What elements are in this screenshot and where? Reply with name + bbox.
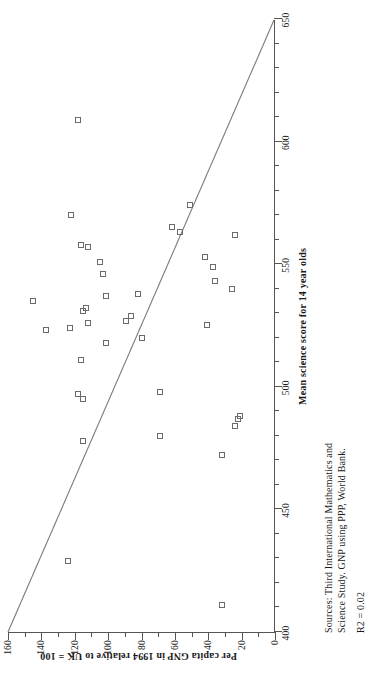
x-axis-minor-tick xyxy=(274,67,279,68)
data-point xyxy=(219,452,225,458)
x-axis-tick-label: 450 xyxy=(281,503,291,518)
sources-note: Sources: Third International Mathematics… xyxy=(322,33,367,633)
data-point xyxy=(30,298,36,304)
plot-inner xyxy=(8,20,274,632)
x-axis-minor-tick xyxy=(274,410,279,411)
x-axis-minor-tick xyxy=(274,557,279,558)
y-axis-minor-tick xyxy=(91,632,92,637)
y-axis-tick-label: 80 xyxy=(137,640,147,650)
y-axis-minor-tick xyxy=(25,632,26,637)
x-axis-minor-tick xyxy=(274,214,279,215)
data-point xyxy=(187,202,193,208)
data-point xyxy=(139,335,145,341)
x-axis-minor-tick xyxy=(274,165,279,166)
data-point xyxy=(85,320,91,326)
sources-line-2: Science Study. GNP using PPP, World Bank… xyxy=(335,33,348,633)
y-axis-minor-tick xyxy=(125,632,126,637)
x-axis-tick-label: 400 xyxy=(281,626,291,641)
x-axis-minor-tick xyxy=(274,239,279,240)
data-point xyxy=(204,323,210,329)
y-axis-major-tick xyxy=(275,632,276,640)
sources-line-1: Sources: Third International Mathematics… xyxy=(322,33,335,633)
data-point xyxy=(210,264,216,270)
data-point xyxy=(229,286,235,292)
data-point xyxy=(65,558,71,564)
y-axis-minor-tick xyxy=(158,632,159,637)
data-point xyxy=(83,305,89,311)
data-point xyxy=(75,391,81,397)
x-axis-minor-tick xyxy=(274,606,279,607)
data-point xyxy=(67,325,73,331)
x-axis-minor-tick xyxy=(274,43,279,44)
x-axis-minor-tick xyxy=(274,337,279,338)
data-point xyxy=(202,254,208,260)
plot-area xyxy=(8,20,275,633)
y-axis-major-tick xyxy=(8,632,9,640)
y-axis-tick-label: 40 xyxy=(203,640,213,650)
x-axis-minor-tick xyxy=(274,92,279,93)
y-axis-major-tick xyxy=(208,632,209,640)
data-point xyxy=(75,117,81,123)
x-axis-minor-tick xyxy=(274,484,279,485)
data-point xyxy=(212,278,218,284)
y-axis-major-tick xyxy=(142,632,143,640)
data-point xyxy=(232,232,238,238)
y-axis-title: Per capita GNP in 1994 relative to UK = … xyxy=(0,651,289,662)
data-point xyxy=(128,313,134,319)
data-point xyxy=(157,433,163,439)
y-axis-tick-label: 60 xyxy=(170,640,180,650)
r-squared-note: R2 = 0.02 xyxy=(354,33,367,633)
x-axis-minor-tick xyxy=(274,533,279,534)
y-axis-tick-label: 20 xyxy=(237,640,247,650)
data-point xyxy=(232,423,238,429)
y-axis-tick-labels: 020406080100120140160 xyxy=(8,640,275,688)
y-axis-minor-tick xyxy=(58,632,59,637)
x-axis-minor-tick xyxy=(274,288,279,289)
data-point xyxy=(135,291,141,297)
data-point xyxy=(237,413,243,419)
data-point xyxy=(78,242,84,248)
x-axis-minor-tick xyxy=(274,459,279,460)
data-point xyxy=(68,212,74,218)
y-axis-minor-tick xyxy=(192,632,193,637)
data-point xyxy=(103,340,109,346)
data-point xyxy=(157,389,163,395)
y-axis-major-tick xyxy=(175,632,176,640)
y-axis-major-tick xyxy=(242,632,243,640)
data-point xyxy=(100,271,106,277)
x-axis-minor-tick xyxy=(274,116,279,117)
data-point xyxy=(78,357,84,363)
y-axis-minor-tick xyxy=(258,632,259,637)
x-axis-tick-label: 500 xyxy=(281,380,291,395)
data-point xyxy=(103,293,109,299)
y-axis-major-tick xyxy=(108,632,109,640)
x-axis-tick-label: 550 xyxy=(281,258,291,273)
y-axis-major-tick xyxy=(41,632,42,640)
x-axis-tick-label: 650 xyxy=(281,13,291,28)
x-axis-title: Mean science score for 14 year olds xyxy=(297,20,308,633)
y-axis-major-tick xyxy=(75,632,76,640)
data-point xyxy=(169,224,175,230)
x-axis-minor-tick xyxy=(274,361,279,362)
x-axis-minor-tick xyxy=(274,312,279,313)
data-point xyxy=(80,438,86,444)
y-axis-minor-tick xyxy=(225,632,226,637)
x-axis-minor-tick xyxy=(274,190,279,191)
data-point xyxy=(177,229,183,235)
data-point xyxy=(43,327,49,333)
y-axis-tick-label: 0 xyxy=(270,640,280,645)
data-point xyxy=(85,244,91,250)
x-axis-minor-tick xyxy=(274,582,279,583)
x-axis-minor-tick xyxy=(274,435,279,436)
x-axis-tick-label: 600 xyxy=(281,135,291,150)
data-point xyxy=(219,602,225,608)
data-point xyxy=(97,259,103,265)
trendline xyxy=(8,20,274,632)
